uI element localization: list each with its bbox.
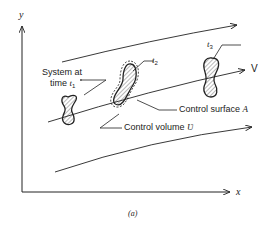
leader-t3 — [214, 45, 241, 58]
leader-control-surface — [137, 100, 177, 110]
system-blob-t3 — [204, 58, 219, 97]
velocity-label: V — [251, 64, 258, 74]
leader-control-volume — [100, 114, 122, 128]
control-volume-label: Control volume Ʋ — [124, 123, 193, 132]
control-surface-label: Control surface A — [179, 105, 248, 114]
leader-t1 — [80, 80, 106, 95]
t2-label: t2 — [152, 56, 158, 66]
system-label: System at — [42, 68, 82, 77]
x-axis-label: x — [236, 187, 240, 197]
figure-caption: (a) — [128, 210, 137, 218]
y-axis-label: y — [19, 10, 23, 20]
t3-label: t3 — [207, 40, 213, 50]
time-label: time t1 — [50, 79, 75, 89]
streamlines — [48, 25, 252, 172]
system-blob-t1 — [62, 95, 77, 124]
system-blob-t2 — [114, 64, 137, 105]
streamline-bottom — [55, 127, 252, 172]
